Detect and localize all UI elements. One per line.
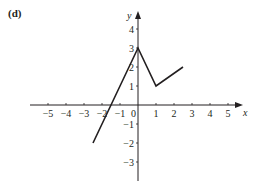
x-tick-label: 1 — [154, 108, 159, 119]
x-tick-label: 3 — [190, 108, 195, 119]
ticks: −5−4−3−2−112345−3−2−11234 — [43, 24, 231, 168]
axes — [30, 11, 243, 181]
x-tick-label: −4 — [61, 108, 72, 119]
y-tick-label: 4 — [129, 24, 134, 35]
origin-label: 0 — [131, 108, 136, 119]
y-tick-label: −2 — [123, 138, 134, 149]
panel-label: (d) — [8, 7, 22, 20]
x-tick-label: −5 — [43, 108, 54, 119]
x-tick-label: −1 — [115, 108, 126, 119]
y-tick-label: −1 — [123, 119, 134, 130]
x-tick-label: −3 — [79, 108, 90, 119]
chart-panel: (d) −5−4−3−2−112345−3−2−11234 x y 0 — [0, 0, 255, 191]
y-tick-label: −3 — [123, 157, 134, 168]
x-axis-label: x — [242, 107, 248, 118]
y-axis-label: y — [126, 10, 132, 21]
chart-svg: (d) −5−4−3−2−112345−3−2−11234 x y 0 — [0, 0, 255, 191]
y-tick-label: 1 — [129, 81, 134, 92]
x-tick-label: 4 — [208, 108, 213, 119]
x-tick-label: 2 — [172, 108, 177, 119]
x-axis-arrow-icon — [235, 102, 243, 108]
y-tick-label: 3 — [129, 43, 134, 54]
x-tick-label: 5 — [226, 108, 231, 119]
y-axis-arrow-icon — [135, 11, 141, 19]
